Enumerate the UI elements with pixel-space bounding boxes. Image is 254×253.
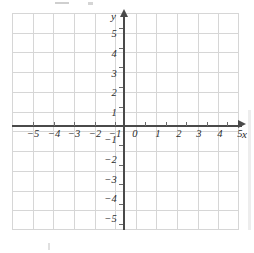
x-axis-arrow-icon — [238, 120, 246, 128]
x-tick-mark — [115, 122, 116, 126]
y-tick-label: 2 — [95, 88, 117, 99]
y-axis-line — [123, 15, 125, 230]
y-tick-mark — [119, 224, 123, 225]
grid-background — [12, 13, 239, 230]
x-tick-mark — [207, 122, 208, 126]
y-tick-mark — [119, 165, 123, 166]
scan-artifact-top-left — [55, 2, 69, 4]
x-tick-mark — [186, 122, 187, 126]
x-tick-mark — [54, 122, 55, 126]
y-tick-mark — [119, 28, 123, 29]
y-tick-mark — [119, 67, 123, 68]
y-tick-label: 3 — [95, 69, 117, 80]
scan-artifact-right-edge — [248, 110, 251, 230]
y-tick-mark — [119, 145, 123, 146]
y-tick-label: −2 — [95, 155, 117, 166]
y-tick-mark — [119, 107, 123, 108]
y-axis-name-label: y — [111, 10, 116, 22]
y-tick-label: −5 — [95, 214, 117, 225]
y-tick-label: −4 — [95, 194, 117, 205]
y-tick-label: −1 — [95, 135, 117, 146]
x-tick-mark — [33, 122, 34, 126]
y-tick-label: −3 — [95, 175, 117, 186]
y-tick-label: 5 — [95, 29, 117, 40]
y-tick-mark — [119, 87, 123, 88]
scan-artifact-bottom — [48, 243, 50, 250]
y-tick-label: 4 — [95, 49, 117, 60]
y-tick-label: 1 — [95, 108, 117, 119]
x-tick-mark — [74, 122, 75, 126]
y-axis-arrow-icon — [120, 9, 128, 17]
x-tick-mark — [166, 122, 167, 126]
y-tick-mark — [119, 184, 123, 185]
x-tick-mark — [95, 122, 96, 126]
coordinate-plane-figure: −5−4−3−2−1012345 54321−1−2−3−4−5 x y — [0, 0, 254, 253]
x-tick-label: 5 — [227, 129, 253, 140]
x-tick-mark — [227, 122, 228, 126]
grid-bottom-border — [12, 229, 239, 230]
scan-artifact-top-right — [88, 2, 93, 5]
y-tick-mark — [119, 48, 123, 49]
y-tick-mark — [119, 204, 123, 205]
x-axis-name-label: x — [242, 128, 247, 140]
x-tick-mark — [145, 122, 146, 126]
